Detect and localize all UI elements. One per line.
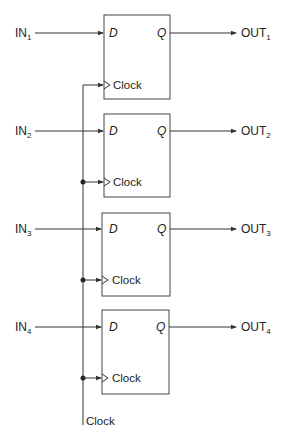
pin-q: Q — [157, 26, 166, 40]
output-label-3: OUT3 — [241, 222, 271, 238]
pin-q: Q — [157, 124, 166, 138]
input-label-1: IN1 — [15, 26, 32, 42]
clock-input-label: Clock — [86, 415, 115, 427]
output-label-1: OUT1 — [241, 26, 271, 42]
pin-q: Q — [156, 320, 165, 334]
pin-clock: Clock — [112, 372, 141, 384]
input-label-4: IN4 — [15, 320, 32, 336]
flip-flop-3: IN3 D Q Clock OUT3 — [15, 213, 271, 296]
pin-clock: Clock — [113, 176, 142, 188]
pin-d: D — [109, 222, 118, 236]
pin-d: D — [109, 124, 118, 138]
flip-flop-4: IN4 D Q Clock OUT4 — [15, 310, 271, 394]
pin-d: D — [109, 320, 118, 334]
output-label-4: OUT4 — [241, 320, 271, 336]
output-label-2: OUT2 — [241, 124, 271, 140]
flip-flop-2: IN2 D Q Clock OUT2 — [15, 114, 271, 197]
pin-d: D — [109, 26, 118, 40]
input-label-2: IN2 — [15, 124, 32, 140]
pin-clock: Clock — [112, 274, 141, 286]
pin-clock: Clock — [113, 79, 142, 91]
register-diagram: Clock IN1 D Q Clock OUT1 IN2 D Q Clock O… — [0, 0, 284, 438]
pin-q: Q — [157, 222, 166, 236]
input-label-3: IN3 — [15, 222, 32, 238]
flip-flop-1: IN1 D Q Clock OUT1 — [15, 15, 271, 99]
